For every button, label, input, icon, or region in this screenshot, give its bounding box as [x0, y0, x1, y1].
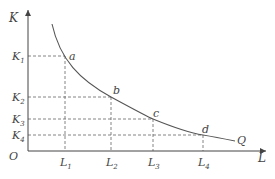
k3-label: K3	[11, 113, 25, 128]
point-d-label: d	[202, 123, 209, 136]
curve-label: Q	[237, 134, 246, 147]
isoquant-diagram: K L O Q a b c d K1 K2 K3 K4 L1 L2 L3 L4	[0, 0, 275, 179]
k1-label: K1	[11, 50, 25, 65]
point-a-label: a	[69, 50, 76, 63]
origin-label: O	[9, 150, 18, 163]
point-b-label: b	[113, 84, 120, 97]
k2-label: K2	[11, 91, 25, 106]
l3-label: L3	[147, 156, 160, 171]
l4-label: L4	[197, 156, 210, 171]
x-axis-label: L	[257, 151, 266, 165]
l1-label: L1	[59, 156, 72, 171]
k4-label: K4	[11, 129, 25, 144]
point-c-label: c	[153, 107, 159, 120]
y-axis-label: K	[8, 11, 19, 25]
guide-lines	[28, 56, 203, 151]
l2-label: L2	[105, 156, 118, 171]
